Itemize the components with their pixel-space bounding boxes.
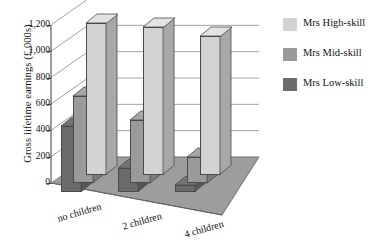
- legend-swatch-icon: [283, 78, 297, 91]
- legend-label: Mrs Low-skill: [303, 77, 363, 88]
- legend-swatch-icon: [283, 18, 297, 31]
- bar-mrs-high-skill-no-children: [86, 23, 107, 174]
- bar-side-face: [163, 18, 176, 175]
- bar-top-face: [143, 18, 177, 29]
- bar-top-face: [86, 14, 120, 25]
- legend-label: Mrs High-skill: [303, 17, 365, 28]
- legend-item[interactable]: Mrs Low-skill: [283, 78, 374, 108]
- plot-area: [51, 30, 259, 215]
- y-tick-label: 600: [8, 99, 50, 109]
- y-tick-label: 800: [8, 73, 50, 83]
- legend-label: Mrs Mid-skill: [303, 47, 362, 58]
- chart-legend: Mrs High-skillMrs Mid-skillMrs Low-skill: [283, 18, 374, 108]
- bar-front-face: [200, 36, 221, 174]
- y-tick-label: 1,000: [8, 46, 50, 56]
- y-tick-label: 0: [8, 178, 50, 188]
- chart-figure: Gross lifetime earnings (£,000s) 0200400…: [0, 0, 374, 251]
- legend-swatch-icon: [283, 48, 297, 61]
- bar-mrs-low-skill-4-children: [175, 185, 196, 192]
- y-tick-label: 400: [8, 125, 50, 135]
- y-tick-mark: [47, 25, 51, 26]
- y-tick-label: 200: [8, 152, 50, 162]
- x-axis-label-4-children: 4 children: [183, 218, 225, 240]
- bar-mrs-high-skill-2-children: [143, 27, 164, 174]
- bar-front-face: [86, 23, 107, 174]
- bar-front-face: [143, 27, 164, 174]
- bar-mrs-high-skill-4-children: [200, 36, 221, 174]
- y-axis-ticks: 02004006008001,0001,200: [0, 0, 50, 251]
- legend-item[interactable]: Mrs High-skill: [283, 18, 374, 48]
- y-tick-label: 1,200: [8, 20, 50, 30]
- legend-item[interactable]: Mrs Mid-skill: [283, 48, 374, 78]
- bar-top-face: [200, 27, 234, 38]
- bar-side-face: [220, 27, 233, 175]
- bar-side-face: [106, 14, 119, 175]
